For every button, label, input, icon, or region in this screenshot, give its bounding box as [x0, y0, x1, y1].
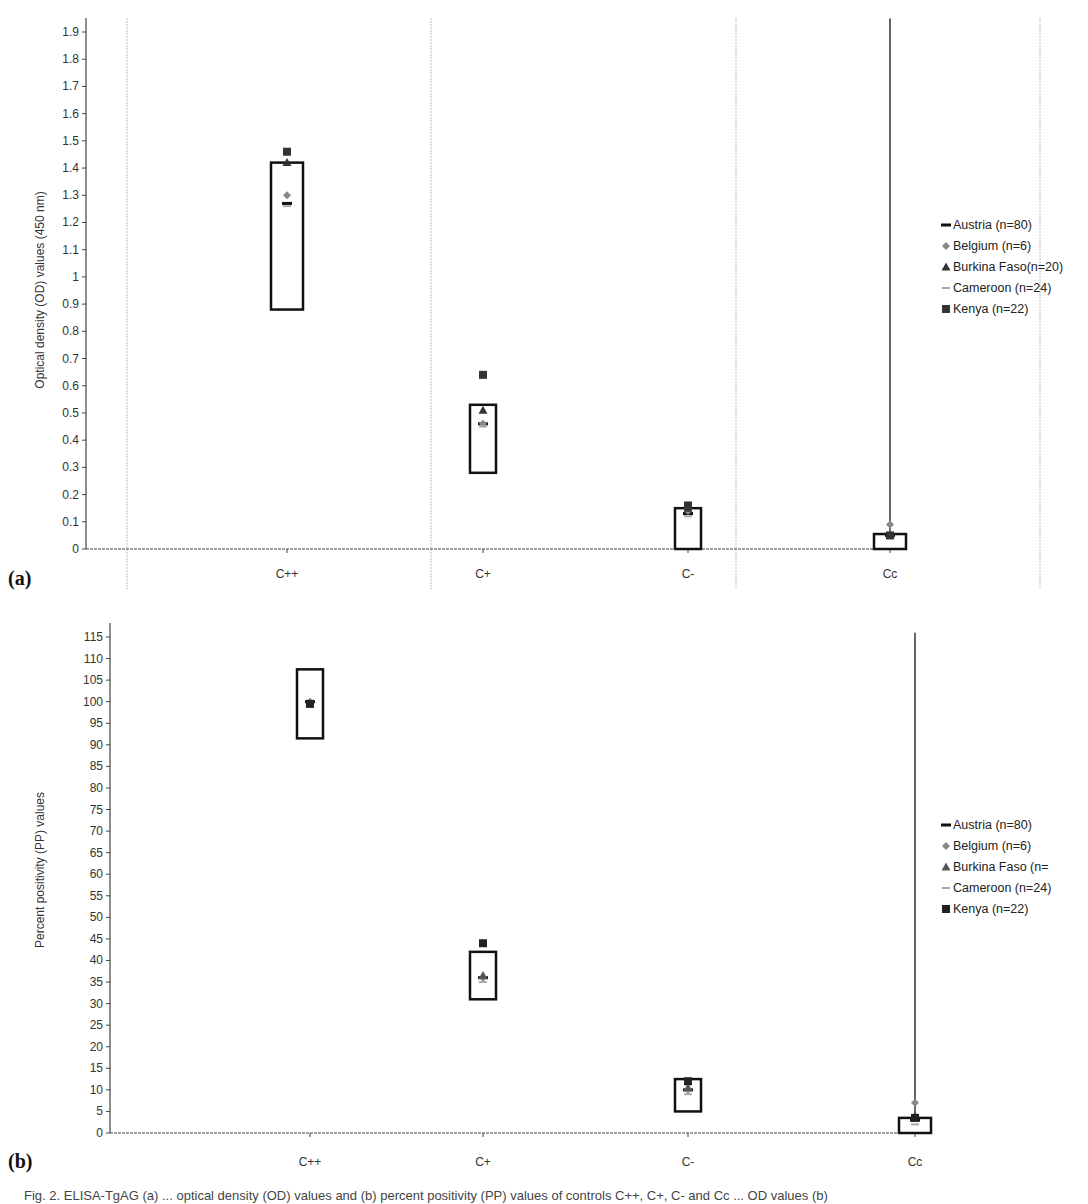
- y-tick-label: 110: [84, 652, 103, 666]
- y-tick-label: 60: [90, 867, 104, 881]
- y-axis-title: Optical density (OD) values (450 nm): [33, 191, 47, 388]
- legend-marker-triangle: [942, 263, 951, 271]
- y-tick-label: 30: [90, 997, 104, 1011]
- data-point-square: [911, 1114, 919, 1122]
- data-point-square: [684, 1077, 692, 1085]
- chart-panel-a: 00.10.20.30.40.50.60.70.80.911.11.21.31.…: [8, 18, 1063, 590]
- y-tick-label: 10: [90, 1083, 104, 1097]
- y-tick-label: 90: [90, 738, 104, 752]
- y-tick-label: 0.4: [62, 433, 79, 447]
- y-tick-label: 1.6: [62, 107, 79, 121]
- y-tick-label: 115: [84, 630, 103, 644]
- figure-canvas: 00.10.20.30.40.50.60.70.80.911.11.21.31.…: [0, 0, 1088, 1204]
- legend-entry: Belgium (n=6): [953, 239, 1031, 253]
- range-box-C++: [271, 163, 303, 310]
- y-tick-label: 0.9: [62, 297, 79, 311]
- y-tick-label: 1.3: [62, 188, 79, 202]
- legend-entry: Kenya (n=22): [953, 902, 1028, 916]
- y-tick-label: 50: [90, 910, 104, 924]
- legend-marker-diamond: [942, 842, 950, 850]
- y-tick-label: 0.3: [62, 460, 79, 474]
- data-point-diamond: [886, 521, 894, 529]
- y-tick-label: 0.2: [62, 488, 79, 502]
- legend-marker-dash: [941, 224, 951, 227]
- y-tick-label: 100: [83, 695, 103, 709]
- y-tick-label: 15: [90, 1061, 104, 1075]
- data-point-square: [479, 371, 487, 379]
- y-tick-label: 55: [90, 889, 104, 903]
- y-tick-label: 40: [90, 953, 104, 967]
- data-point-square: [283, 148, 291, 156]
- data-point-triangle: [479, 971, 488, 979]
- y-tick-label: 75: [90, 803, 104, 817]
- y-tick-label: 1.5: [62, 134, 79, 148]
- y-tick-label: 1.9: [62, 25, 79, 39]
- x-category-label: C++: [276, 567, 299, 581]
- y-tick-label: 1: [72, 270, 79, 284]
- y-tick-label: 45: [90, 932, 104, 946]
- y-tick-label: 1.1: [62, 243, 79, 257]
- y-tick-label: 0.5: [62, 406, 79, 420]
- legend-entry: Belgium (n=6): [953, 839, 1031, 853]
- legend-entry: Austria (n=80): [953, 218, 1032, 232]
- y-tick-label: 0.8: [62, 324, 79, 338]
- y-tick-label: 0: [96, 1126, 103, 1140]
- y-tick-label: 0: [72, 542, 79, 556]
- y-tick-label: 95: [90, 716, 104, 730]
- legend-marker-square: [942, 305, 950, 313]
- y-tick-label: 65: [90, 846, 104, 860]
- y-tick-label: 35: [90, 975, 104, 989]
- y-tick-label: 105: [83, 673, 103, 687]
- data-point-diamond: [283, 191, 291, 199]
- range-box-C+: [470, 405, 496, 473]
- x-category-label: C+: [475, 1155, 491, 1169]
- y-axis-title: Percent positivity (PP) values: [33, 792, 47, 948]
- y-tick-label: 1.8: [62, 52, 79, 66]
- data-point-triangle: [479, 406, 488, 414]
- data-point-dash-light: [479, 426, 487, 428]
- x-category-label: Cc: [908, 1155, 923, 1169]
- x-category-label: C-: [682, 567, 695, 581]
- legend-marker-dash-light: [942, 887, 950, 889]
- legend-entry: Burkina Faso(n=20): [953, 260, 1063, 274]
- data-point-dash: [282, 202, 292, 205]
- y-tick-label: 5: [96, 1104, 103, 1118]
- x-category-label: C+: [475, 567, 491, 581]
- data-point-dash-light: [283, 205, 291, 207]
- legend-marker-dash-light: [942, 287, 950, 289]
- legend-marker-triangle: [942, 863, 951, 871]
- y-tick-label: 0.7: [62, 352, 79, 366]
- legend-entry: Kenya (n=22): [953, 302, 1028, 316]
- y-tick-label: 0.1: [62, 515, 79, 529]
- y-tick-label: 1.7: [62, 79, 79, 93]
- figure-caption: Fig. 2. ELISA-TgAG (a) ... optical densi…: [24, 1188, 1084, 1203]
- data-point-square: [886, 531, 894, 539]
- legend-entry: Cameroon (n=24): [953, 281, 1051, 295]
- x-category-label: C++: [299, 1155, 322, 1169]
- data-point-square: [684, 501, 692, 509]
- y-tick-label: 80: [90, 781, 104, 795]
- y-tick-label: 70: [90, 824, 104, 838]
- legend-marker-diamond: [942, 242, 950, 250]
- legend-entry: Cameroon (n=24): [953, 881, 1051, 895]
- data-point-dash-light: [684, 515, 692, 517]
- y-tick-label: 0.6: [62, 379, 79, 393]
- y-tick-label: 85: [90, 759, 104, 773]
- x-category-label: Cc: [883, 567, 898, 581]
- y-tick-label: 1.2: [62, 215, 79, 229]
- legend-marker-square: [942, 905, 950, 913]
- panel-label: (a): [8, 567, 31, 590]
- panel-label: (b): [8, 1150, 32, 1173]
- y-tick-label: 20: [90, 1040, 104, 1054]
- legend-entry: Austria (n=80): [953, 818, 1032, 832]
- data-point-diamond: [911, 1099, 919, 1107]
- chart-panel-b: 0510152025303540455055606570758085909510…: [8, 623, 1051, 1173]
- data-point-square: [306, 700, 314, 708]
- y-tick-label: 1.4: [62, 161, 79, 175]
- legend-marker-dash: [941, 824, 951, 827]
- data-point-dash-light: [684, 1093, 692, 1095]
- data-point-dash-light: [479, 981, 487, 983]
- x-category-label: C-: [682, 1155, 695, 1169]
- data-point-dash-light: [911, 1123, 919, 1125]
- y-tick-label: 25: [90, 1018, 104, 1032]
